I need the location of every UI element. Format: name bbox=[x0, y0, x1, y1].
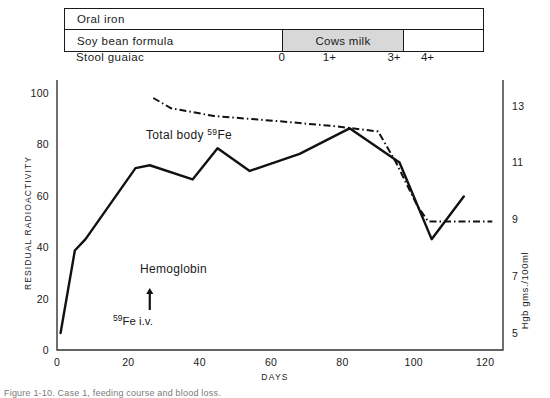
tick-label: 60 bbox=[37, 190, 49, 202]
tick-label: 120 bbox=[476, 356, 494, 368]
tick-label: 11 bbox=[512, 156, 524, 168]
tick-label: 60 bbox=[265, 356, 277, 368]
tick-label: 80 bbox=[336, 356, 348, 368]
annotation-label-fe59-iv: 59Fe i.v. bbox=[113, 313, 153, 327]
tick-label: 20 bbox=[122, 356, 134, 368]
axis-frame bbox=[57, 80, 503, 350]
tick-label: 40 bbox=[194, 356, 206, 368]
tick-label: 5 bbox=[512, 327, 518, 339]
tick-label: 0 bbox=[43, 344, 49, 356]
series-hemoglobin-line bbox=[61, 128, 464, 333]
y-axis-title-left: RESIDUAL RADIOACTIVITY bbox=[23, 143, 33, 303]
tick-label: 100 bbox=[405, 356, 423, 368]
figure-caption: Figure 1-10. Case 1, feeding course and … bbox=[4, 388, 221, 398]
tick-label: 9 bbox=[512, 213, 518, 225]
tick-label: 40 bbox=[37, 241, 49, 253]
x-axis-title: DAYS bbox=[0, 372, 550, 382]
tick-label: 20 bbox=[37, 293, 49, 305]
series-total-body-fe59-line bbox=[153, 98, 492, 221]
tick-label: 7 bbox=[512, 270, 518, 282]
y-axis-title-right: Hgb gms./100ml bbox=[519, 231, 530, 351]
series-label-hemoglobin: Hemoglobin bbox=[140, 262, 207, 276]
fe59-iv-arrow-icon bbox=[146, 288, 153, 310]
tick-label: 0 bbox=[54, 356, 60, 368]
tick-label: 80 bbox=[37, 138, 49, 150]
series-label-total-body-fe59: Total body 59Fe bbox=[146, 127, 232, 142]
tick-label: 13 bbox=[512, 100, 524, 112]
tick-label: 100 bbox=[31, 87, 49, 99]
